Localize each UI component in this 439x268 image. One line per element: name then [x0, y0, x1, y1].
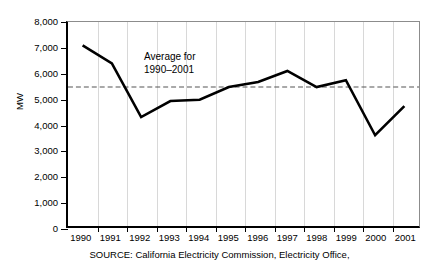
- y-tick-mark: [61, 126, 68, 127]
- x-tick-label: 2001: [395, 233, 416, 243]
- x-tick-mark: [393, 226, 394, 232]
- chart-figure: MW 01,0002,0003,0004,0005,0006,0007,0008…: [0, 0, 439, 268]
- x-tick-mark: [304, 226, 305, 232]
- x-tick-mark: [157, 226, 158, 232]
- x-tick-mark: [127, 226, 128, 232]
- y-tick-label: 7,000: [34, 43, 58, 53]
- x-tick-mark: [275, 226, 276, 232]
- x-tick-label: 1999: [336, 233, 357, 243]
- x-tick-label: 1996: [247, 233, 268, 243]
- y-tick-label: 2,000: [34, 173, 58, 183]
- x-tick-label: 1998: [306, 233, 327, 243]
- x-tick-mark: [363, 226, 364, 232]
- y-tick-label: 3,000: [34, 147, 58, 157]
- y-tick-label: 5,000: [34, 95, 58, 105]
- y-tick-label: 1,000: [34, 198, 58, 208]
- y-tick-mark: [61, 74, 68, 75]
- x-tick-label: 1992: [129, 233, 150, 243]
- x-tick-mark: [98, 226, 99, 232]
- y-tick-mark: [61, 151, 68, 152]
- y-tick-mark: [61, 177, 68, 178]
- source-caption: SOURCE: California Electricity Commissio…: [0, 249, 439, 261]
- x-tick-label: 2000: [365, 233, 386, 243]
- y-tick-mark: [61, 22, 68, 23]
- series-plot: [68, 22, 419, 226]
- y-tick-mark: [61, 229, 68, 230]
- x-tick-mark: [334, 226, 335, 232]
- x-tick-label: 1993: [159, 233, 180, 243]
- x-tick-mark: [245, 226, 246, 232]
- x-tick-mark: [186, 226, 187, 232]
- y-axis-title: MW: [14, 93, 25, 110]
- y-tick-label: 8,000: [34, 17, 58, 27]
- y-tick-mark: [61, 48, 68, 49]
- y-tick-mark: [61, 203, 68, 204]
- x-tick-label: 1991: [100, 233, 121, 243]
- y-tick-label: 0: [53, 224, 58, 234]
- x-tick-mark: [216, 226, 217, 232]
- average-annotation-line1: Average for: [144, 50, 196, 63]
- plot-area: 01,0002,0003,0004,0005,0006,0007,0008,00…: [66, 21, 420, 228]
- y-tick-label: 4,000: [34, 121, 58, 131]
- x-tick-label: 1997: [277, 233, 298, 243]
- average-annotation: Average for 1990–2001: [144, 50, 196, 76]
- y-tick-mark: [61, 100, 68, 101]
- average-annotation-line2: 1990–2001: [144, 63, 196, 76]
- y-tick-label: 6,000: [34, 69, 58, 79]
- mw-series-line: [83, 45, 405, 135]
- x-tick-label: 1995: [218, 233, 239, 243]
- x-tick-label: 1994: [188, 233, 209, 243]
- x-tick-label: 1990: [70, 233, 91, 243]
